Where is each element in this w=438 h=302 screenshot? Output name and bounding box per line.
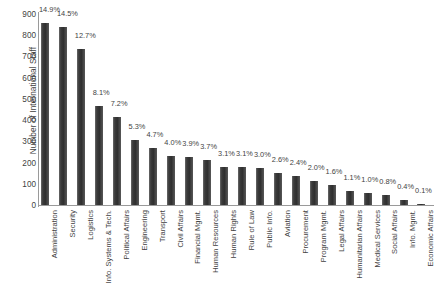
y-tick-label: 300 [2, 137, 36, 146]
x-tick-label: Program Mgmt. [319, 210, 328, 262]
x-tick-label: Social Affairs [390, 210, 399, 254]
x-tick-label: Rule of Law [247, 210, 256, 250]
x-tick-label: Logistics [86, 210, 95, 240]
x-tick-label: Human Rights [229, 210, 238, 258]
x-tick-label: Medical Services [373, 210, 382, 268]
y-axis-tick-labels: 0100200300400500600700800900 [0, 0, 36, 302]
y-tick-label: 400 [2, 116, 36, 125]
x-tick-label: Civil Affairs [176, 210, 185, 248]
y-tick-label: 200 [2, 158, 36, 167]
x-tick-label: Engineering [140, 210, 149, 251]
y-tick-label: 600 [2, 73, 36, 82]
x-tick-label: Administration [50, 210, 59, 258]
x-tick-label: Public Info. [265, 210, 274, 248]
y-tick-label: 500 [2, 94, 36, 103]
x-tick-label: Human Resources [211, 210, 220, 273]
x-tick-label: Humanitarian Affairs [355, 210, 364, 278]
x-tick-label: Info. Mgmt. [408, 210, 417, 248]
x-tick-label: Transport [158, 210, 167, 242]
x-tick-label: Financial Mgmt. [193, 210, 202, 264]
x-tick-label: Economic Affairs [426, 210, 435, 267]
x-tick-label: Procurement [301, 210, 310, 254]
y-tick-label: 900 [2, 10, 36, 19]
y-tick-label: 0 [2, 201, 36, 210]
x-tick-label: Political Affairs [122, 210, 131, 259]
bar-chart: Number of International Staff 0100200300… [0, 0, 438, 302]
x-tick-label: Legal Affairs [337, 210, 346, 252]
x-tick-label: Info. Systems & Tech. [104, 210, 113, 283]
x-tick-label: Security [68, 210, 77, 238]
y-tick-label: 700 [2, 52, 36, 61]
x-tick-label: Aviation [283, 210, 292, 237]
y-tick-label: 800 [2, 31, 36, 40]
x-axis-category-labels: AdministrationSecurityLogisticsInfo. Sys… [38, 0, 432, 302]
y-tick-label: 100 [2, 179, 36, 188]
